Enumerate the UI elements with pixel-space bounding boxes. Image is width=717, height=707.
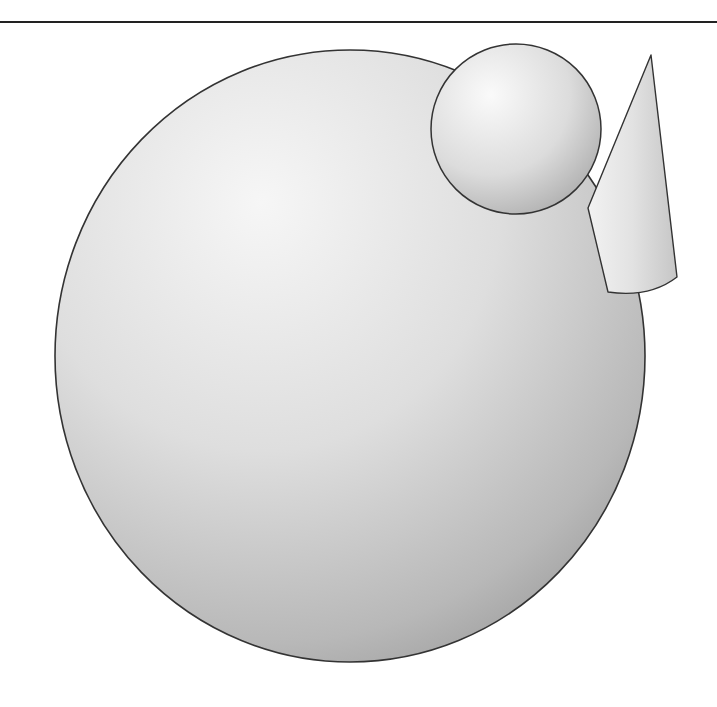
scene-figure <box>0 0 717 707</box>
small-sphere <box>431 44 601 214</box>
cone <box>588 55 677 293</box>
